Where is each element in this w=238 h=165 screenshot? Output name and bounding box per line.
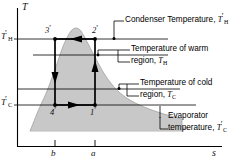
callout-cold-region-symbol: TC — [167, 90, 176, 99]
leader-warm-region — [98, 50, 130, 62]
ts-diagram-figure: T s T′H T′C b a 3′ 2′ 4′ 1′ Condenser Te… — [0, 0, 238, 165]
callout-cold-region-line2: region, TC — [140, 91, 176, 100]
callout-condenser-temperature: Condenser Temperature, T′H — [125, 16, 228, 25]
callout-cold-region-symbol-sub: C — [172, 94, 176, 100]
leader-dot-cold-region — [118, 87, 121, 90]
prime-mark: ′ — [94, 105, 96, 115]
callout-evaporator-symbol: T′C — [217, 123, 227, 132]
state-label-2-prime: 2′ — [92, 26, 98, 35]
state-label-3-prime: 3′ — [45, 26, 51, 35]
callout-warm-region-line1: Temperature of warm — [131, 45, 208, 54]
prime-mark: ′ — [54, 105, 56, 115]
prime-mark: ′ — [5, 28, 7, 38]
callout-condenser-symbol: T′H — [218, 15, 229, 24]
callout-evaporator-line2: temperature, T′C — [168, 124, 227, 133]
callout-evaporator-symbol-sub: C — [223, 127, 227, 133]
callout-warm-region-line2: region, TH — [131, 57, 167, 66]
leader-dot-condenser — [113, 37, 116, 40]
state-dot-2prime — [93, 37, 97, 41]
callout-evaporator-line1: Evaporator — [168, 112, 208, 121]
callout-warm-region-symbol: TH — [158, 56, 167, 65]
leader-condenser-temperature — [114, 21, 124, 38]
y-tick-label-TC-prime: T′C — [1, 98, 12, 107]
callout-evaporator-line2-text: temperature, — [168, 123, 217, 132]
prime-mark: ′ — [49, 23, 51, 33]
prime-mark: ′ — [5, 94, 7, 104]
y-axis-label: T — [22, 2, 28, 13]
state-label-1-prime: 1′ — [90, 108, 96, 117]
x-tick-label-a: a — [91, 149, 96, 158]
callout-cold-region-line1: Temperature of cold — [140, 79, 212, 88]
callout-condenser-text: Condenser Temperature, — [125, 15, 218, 24]
callout-warm-region-symbol-sub: H — [163, 60, 167, 66]
callout-cold-region-line2-text: region, — [140, 90, 167, 99]
y-tick-label-TC-prime-sub: C — [8, 101, 12, 108]
x-axis-label: s — [212, 148, 216, 159]
x-tick-label-b: b — [51, 149, 56, 158]
state-dot-3prime — [53, 37, 57, 41]
callout-warm-region-line2-text: region, — [131, 56, 158, 65]
prime-mark: ′ — [96, 23, 98, 33]
state-label-4-prime: 4′ — [50, 108, 56, 117]
y-tick-label-TH-prime-sub: H — [8, 35, 13, 42]
y-tick-label-TH-prime: T′H — [1, 32, 13, 41]
callout-condenser-symbol-sub: H — [224, 19, 228, 25]
